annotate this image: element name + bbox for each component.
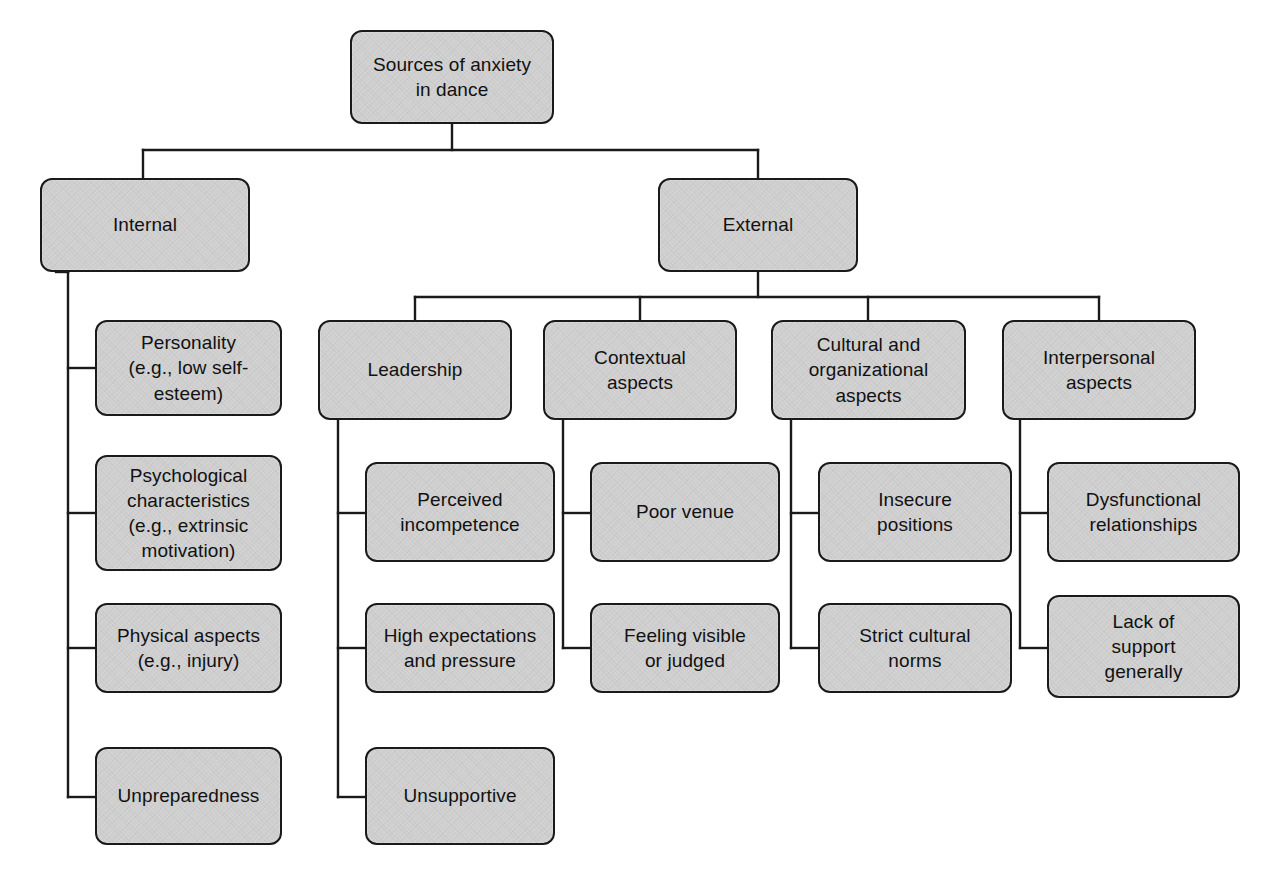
node-cultural-organizational-aspects[interactable]: Cultural and organizational aspects xyxy=(771,320,966,420)
node-leadership-label: Leadership xyxy=(367,357,462,382)
node-poor-venue[interactable]: Poor venue xyxy=(590,462,780,562)
node-interpersonal-aspects-label: Interpersonal aspects xyxy=(1043,345,1155,395)
node-high-expectations-and-pressure[interactable]: High expectations and pressure xyxy=(365,603,555,693)
node-unpreparedness-label: Unpreparedness xyxy=(118,783,260,808)
node-root[interactable]: Sources of anxiety in dance xyxy=(350,30,554,124)
node-interpersonal-aspects[interactable]: Interpersonal aspects xyxy=(1002,320,1196,420)
node-personality-label: Personality (e.g., low self- esteem) xyxy=(129,330,249,405)
node-unsupportive-label: Unsupportive xyxy=(403,783,516,808)
node-personality[interactable]: Personality (e.g., low self- esteem) xyxy=(95,320,282,416)
node-dysfunctional-relationships[interactable]: Dysfunctional relationships xyxy=(1047,462,1240,562)
node-psychological-characteristics[interactable]: Psychological characteristics (e.g., ext… xyxy=(95,455,282,571)
node-external-label: External xyxy=(723,212,794,237)
node-high-expectations-and-pressure-label: High expectations and pressure xyxy=(384,623,537,673)
node-physical-aspects[interactable]: Physical aspects (e.g., injury) xyxy=(95,603,282,693)
node-lack-of-support-generally[interactable]: Lack of support generally xyxy=(1047,595,1240,698)
node-physical-aspects-label: Physical aspects (e.g., injury) xyxy=(117,623,260,673)
node-internal-label: Internal xyxy=(113,212,177,237)
node-perceived-incompetence[interactable]: Perceived incompetence xyxy=(365,462,555,562)
node-internal[interactable]: Internal xyxy=(40,178,250,272)
node-perceived-incompetence-label: Perceived incompetence xyxy=(400,487,520,537)
node-lack-of-support-generally-label: Lack of support generally xyxy=(1104,609,1182,684)
node-psychological-characteristics-label: Psychological characteristics (e.g., ext… xyxy=(127,463,250,563)
node-insecure-positions-label: Insecure positions xyxy=(877,487,953,537)
node-poor-venue-label: Poor venue xyxy=(636,499,734,524)
node-feeling-visible-or-judged[interactable]: Feeling visible or judged xyxy=(590,603,780,693)
node-external[interactable]: External xyxy=(658,178,858,272)
node-cultural-organizational-aspects-label: Cultural and organizational aspects xyxy=(809,332,929,407)
node-strict-cultural-norms-label: Strict cultural norms xyxy=(859,623,970,673)
node-dysfunctional-relationships-label: Dysfunctional relationships xyxy=(1086,487,1201,537)
diagram-canvas: Sources of anxiety in dance Internal Ext… xyxy=(0,0,1282,881)
node-root-label: Sources of anxiety in dance xyxy=(373,52,531,102)
node-feeling-visible-or-judged-label: Feeling visible or judged xyxy=(624,623,746,673)
node-strict-cultural-norms[interactable]: Strict cultural norms xyxy=(818,603,1012,693)
node-unsupportive[interactable]: Unsupportive xyxy=(365,747,555,845)
node-unpreparedness[interactable]: Unpreparedness xyxy=(95,747,282,845)
node-contextual-aspects[interactable]: Contextual aspects xyxy=(543,320,737,420)
node-insecure-positions[interactable]: Insecure positions xyxy=(818,462,1012,562)
node-contextual-aspects-label: Contextual aspects xyxy=(594,345,686,395)
node-leadership[interactable]: Leadership xyxy=(318,320,512,420)
